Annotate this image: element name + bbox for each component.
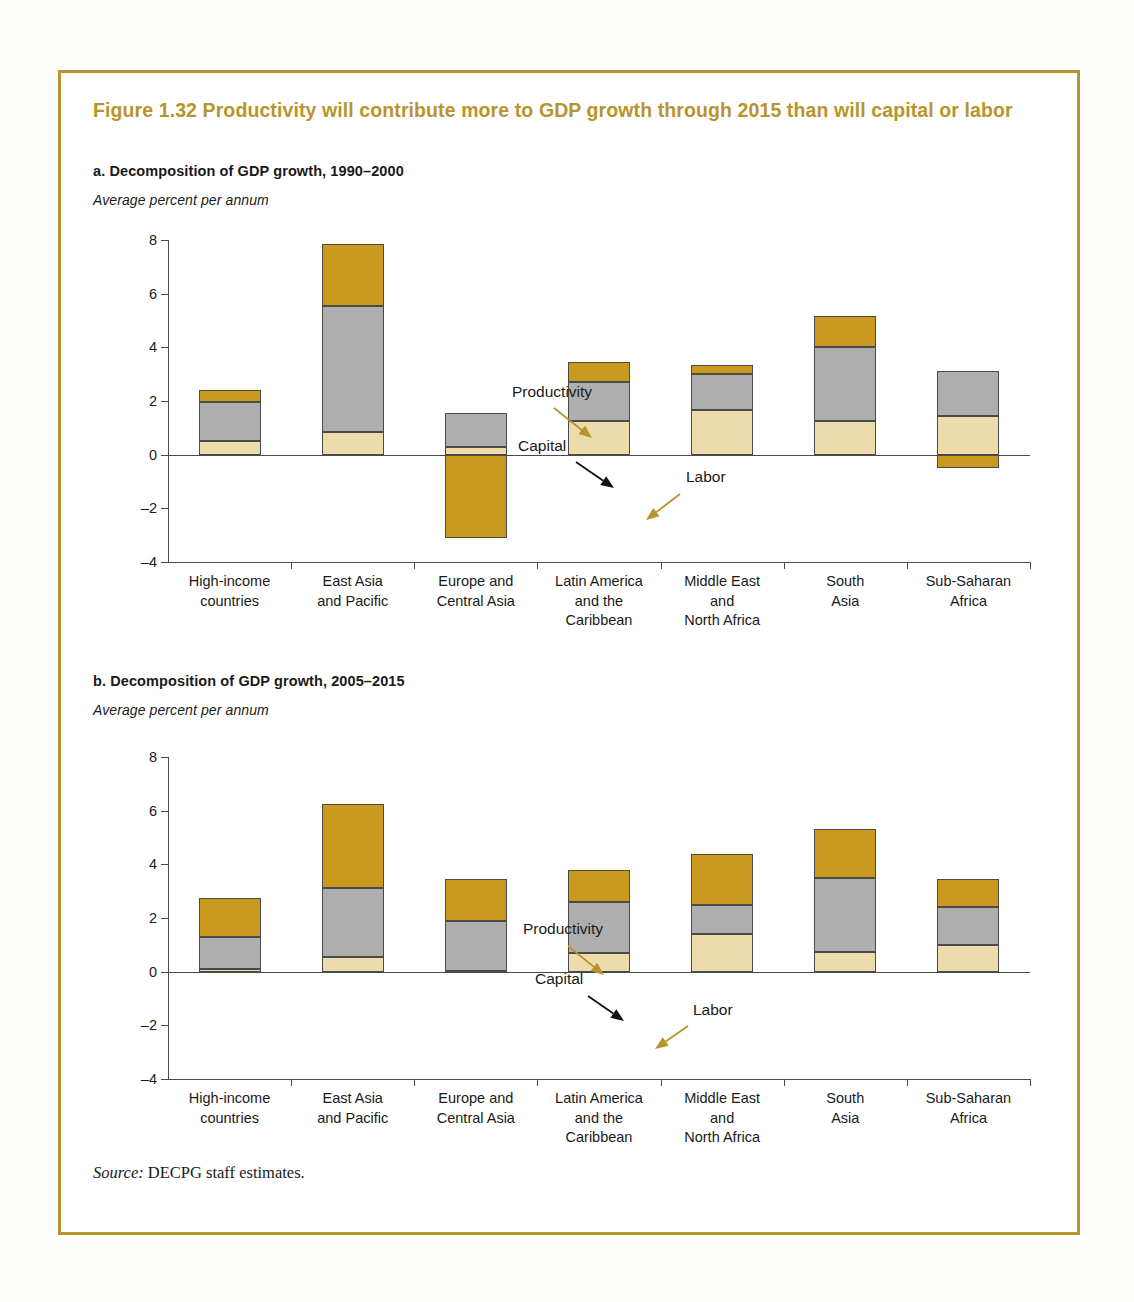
y-axis-tick bbox=[161, 918, 168, 919]
x-axis-category-label: Sub-SaharanAfrica bbox=[907, 572, 1030, 611]
stacked-bar[interactable] bbox=[445, 757, 507, 1079]
annotation-labor-arrow-icon bbox=[641, 1012, 702, 1063]
x-axis-category-tick bbox=[661, 1079, 662, 1086]
category-label-line: Latin America bbox=[537, 572, 660, 592]
category-label-line: South bbox=[784, 1089, 907, 1109]
y-axis-tick-label: –4 bbox=[141, 554, 157, 570]
bar-segment-labor bbox=[445, 971, 507, 973]
x-axis-category-label: Latin Americaand theCaribbean bbox=[537, 1089, 660, 1148]
category-label-line: North Africa bbox=[661, 1128, 784, 1148]
category-label-line: Africa bbox=[907, 592, 1030, 612]
stacked-bar[interactable] bbox=[322, 240, 384, 562]
bar-segment-capital bbox=[814, 878, 876, 952]
source-text: DECPG staff estimates. bbox=[144, 1163, 305, 1182]
x-axis-category-tick bbox=[784, 562, 785, 569]
category-label-line: Caribbean bbox=[537, 1128, 660, 1148]
category-label-line: Central Asia bbox=[414, 592, 537, 612]
bar-segment-productivity bbox=[445, 455, 507, 538]
x-axis-category-tick bbox=[907, 1079, 908, 1086]
bar-segment-labor bbox=[199, 441, 261, 454]
bar-segment-productivity bbox=[568, 362, 630, 382]
source-label: Source: bbox=[93, 1163, 144, 1182]
bar-segment-labor bbox=[814, 952, 876, 972]
x-axis-category-label: East Asiaand Pacific bbox=[291, 1089, 414, 1128]
category-label-line: South bbox=[784, 572, 907, 592]
y-axis-tick-label: 0 bbox=[149, 964, 157, 980]
category-label-line: Europe and bbox=[414, 572, 537, 592]
chart-b-plot-area: 86420–2–4High-incomecountriesEast Asiaan… bbox=[168, 757, 1030, 1079]
stacked-bar[interactable] bbox=[691, 240, 753, 562]
stacked-bar[interactable] bbox=[445, 240, 507, 562]
y-axis-tick-label: 4 bbox=[149, 856, 157, 872]
bar-segment-capital bbox=[937, 907, 999, 945]
annotation-capital-arrow-icon bbox=[562, 448, 628, 502]
bar-segment-capital bbox=[691, 374, 753, 410]
stacked-bar[interactable] bbox=[322, 757, 384, 1079]
x-axis-line bbox=[168, 1079, 1030, 1080]
y-axis-tick bbox=[161, 240, 168, 241]
category-label-line: High-income bbox=[168, 1089, 291, 1109]
x-axis-category-label: Europe andCentral Asia bbox=[414, 1089, 537, 1128]
x-axis-category-label: Middle EastandNorth Africa bbox=[661, 1089, 784, 1148]
bar-segment-capital bbox=[814, 347, 876, 421]
y-axis-tick-label: –2 bbox=[141, 500, 157, 516]
y-axis-tick bbox=[161, 1025, 168, 1026]
y-axis-tick-label: –2 bbox=[141, 1017, 157, 1033]
x-axis-category-tick bbox=[784, 1079, 785, 1086]
annotation-capital-label: Capital bbox=[518, 437, 566, 455]
x-axis-category-tick bbox=[537, 562, 538, 569]
bar-segment-productivity bbox=[445, 879, 507, 921]
category-label-line: Asia bbox=[784, 592, 907, 612]
y-axis-tick-label: 0 bbox=[149, 447, 157, 463]
x-axis-category-label: SouthAsia bbox=[784, 572, 907, 611]
x-axis-category-label: Middle EastandNorth Africa bbox=[661, 572, 784, 631]
category-label-line: countries bbox=[168, 592, 291, 612]
x-axis-line bbox=[168, 562, 1030, 563]
x-axis-category-label: Europe andCentral Asia bbox=[414, 572, 537, 611]
category-label-line: Sub-Saharan bbox=[907, 1089, 1030, 1109]
panel-a-title: a. Decomposition of GDP growth, 1990–200… bbox=[93, 163, 404, 179]
y-axis-tick bbox=[161, 401, 168, 402]
y-axis-tick-label: –4 bbox=[141, 1071, 157, 1087]
annotation-capital-arrow-icon bbox=[574, 982, 638, 1035]
category-label-line: and bbox=[661, 1109, 784, 1129]
category-label-line: and the bbox=[537, 592, 660, 612]
stacked-bar[interactable] bbox=[199, 757, 261, 1079]
category-label-line: Sub-Saharan bbox=[907, 572, 1030, 592]
y-axis-tick bbox=[161, 562, 168, 563]
stacked-bar[interactable] bbox=[937, 240, 999, 562]
x-axis-category-tick bbox=[1030, 1079, 1031, 1086]
bar-segment-capital bbox=[322, 306, 384, 432]
bar-segment-productivity bbox=[814, 316, 876, 347]
y-axis-tick bbox=[161, 508, 168, 509]
bar-segment-labor bbox=[322, 432, 384, 455]
panel-b-title: b. Decomposition of GDP growth, 2005–201… bbox=[93, 673, 405, 689]
stacked-bar[interactable] bbox=[814, 757, 876, 1079]
category-label-line: Middle East bbox=[661, 1089, 784, 1109]
x-axis-category-tick bbox=[1030, 562, 1031, 569]
stacked-bar[interactable] bbox=[937, 757, 999, 1079]
bar-segment-capital bbox=[199, 402, 261, 441]
stacked-bar[interactable] bbox=[199, 240, 261, 562]
y-axis-tick bbox=[161, 1079, 168, 1080]
y-axis-line bbox=[168, 757, 169, 1079]
y-axis-line bbox=[168, 240, 169, 562]
x-axis-category-tick bbox=[907, 562, 908, 569]
bar-segment-capital bbox=[445, 413, 507, 447]
x-axis-category-label: High-incomecountries bbox=[168, 572, 291, 611]
x-axis-category-tick bbox=[414, 562, 415, 569]
y-axis-tick-label: 2 bbox=[149, 393, 157, 409]
category-label-line: East Asia bbox=[291, 572, 414, 592]
category-label-line: Central Asia bbox=[414, 1109, 537, 1129]
bar-segment-productivity bbox=[322, 244, 384, 306]
chart-a-plot-area: 86420–2–4High-incomecountriesEast Asiaan… bbox=[168, 240, 1030, 562]
bar-segment-productivity bbox=[937, 879, 999, 907]
y-axis-tick-label: 2 bbox=[149, 910, 157, 926]
bar-segment-capital bbox=[937, 371, 999, 415]
category-label-line: Asia bbox=[784, 1109, 907, 1129]
bar-segment-productivity bbox=[691, 854, 753, 905]
x-axis-category-tick bbox=[291, 1079, 292, 1086]
y-axis-tick-label: 8 bbox=[149, 749, 157, 765]
x-axis-category-tick bbox=[291, 562, 292, 569]
stacked-bar[interactable] bbox=[814, 240, 876, 562]
